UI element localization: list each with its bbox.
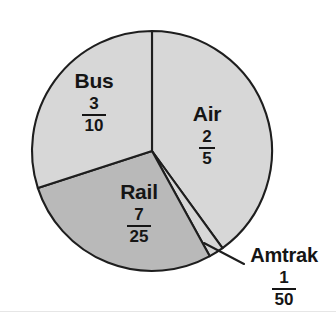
pie-chart-figure: Bus 3 10 Air 2 5 Rail 7 25 Amtrak 1 50 xyxy=(0,0,336,315)
slice-label-amtrak-text: Amtrak xyxy=(236,245,332,265)
slice-fraction-rail-denominator: 25 xyxy=(127,228,152,246)
slice-fraction-bus-numerator: 3 xyxy=(82,95,107,113)
slice-label-air: Air 2 5 xyxy=(176,103,238,168)
slice-fraction-bus-denominator: 10 xyxy=(82,117,107,135)
slice-fraction-rail: 7 25 xyxy=(127,206,152,246)
page-bottom-divider xyxy=(0,311,336,312)
slice-label-amtrak: Amtrak 1 50 xyxy=(236,245,332,309)
slice-label-rail: Rail 7 25 xyxy=(100,181,178,246)
slice-label-bus-text: Bus xyxy=(55,70,133,91)
slice-fraction-air: 2 5 xyxy=(199,128,214,168)
slice-label-rail-text: Rail xyxy=(100,181,178,202)
slice-fraction-amtrak: 1 50 xyxy=(272,269,297,309)
slice-fraction-bus: 3 10 xyxy=(82,95,107,135)
slice-fraction-air-numerator: 2 xyxy=(199,128,214,146)
slice-fraction-air-denominator: 5 xyxy=(199,150,214,168)
slice-fraction-amtrak-numerator: 1 xyxy=(272,269,297,287)
slice-label-air-text: Air xyxy=(176,103,238,124)
slice-fraction-rail-numerator: 7 xyxy=(127,206,152,224)
slice-fraction-amtrak-denominator: 50 xyxy=(272,291,297,309)
slice-label-bus: Bus 3 10 xyxy=(55,70,133,135)
